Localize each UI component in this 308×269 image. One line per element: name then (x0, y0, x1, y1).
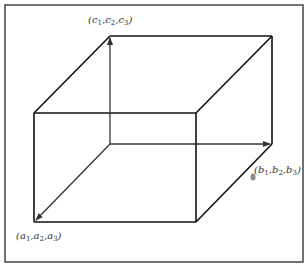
edge-ab-b (196, 144, 272, 222)
edge-c-ac (34, 36, 110, 113)
label-a-point: (a1,a2,a3) (16, 231, 62, 243)
vectors (36, 38, 270, 220)
edge-bc-abc (196, 36, 272, 113)
label-c-point: (c1,c2,c3) (88, 15, 132, 27)
cube-edges (34, 36, 272, 222)
label-b-point: (b1,b2,b3) (254, 165, 301, 177)
parallelepiped-diagram (0, 0, 308, 269)
vector-a-arrow (36, 144, 110, 220)
diagram-frame (5, 5, 303, 262)
